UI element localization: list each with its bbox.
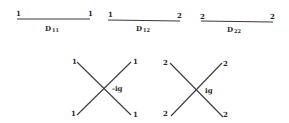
coupling-label: -ig [112,84,123,93]
propagator-label: D12 [136,24,151,33]
leg-label-top-right: 1 [133,57,138,66]
vertex-type-1: 1 1 1 1 -ig [71,57,138,119]
endpoint-label-left: 1 [108,10,113,19]
leg-label-bottom-left: 1 [71,109,76,118]
leg-label-top-left: 2 [163,58,168,67]
propagator-line [201,21,273,22]
endpoint-label-right: 1 [88,9,93,18]
leg-label-top-left: 1 [72,57,77,66]
leg-label-bottom-right: 2 [223,110,228,119]
coupling-label: ig [205,86,213,95]
leg-label-bottom-right: 1 [133,110,138,119]
endpoint-label-left: 2 [200,12,205,21]
propagator-line [108,20,180,21]
propagator-label: D22 [227,25,242,34]
propagator-d22: 2 2 D22 [200,12,275,34]
propagator-d11: 1 1 D11 [16,9,93,33]
leg-label-top-right: 2 [223,59,228,68]
propagator-d12: 1 2 D12 [108,10,182,33]
endpoint-label-right: 2 [177,11,182,20]
endpoint-label-right: 2 [270,12,275,21]
propagator-label: D11 [45,24,59,33]
feynman-rules-diagram: 1 1 D11 1 2 D12 2 2 D22 1 1 1 1 -ig 2 2 … [0,0,289,123]
vertex-type-2: 2 2 2 2 ig [163,58,228,119]
leg-label-bottom-left: 2 [163,109,168,118]
endpoint-label-left: 1 [16,9,21,18]
